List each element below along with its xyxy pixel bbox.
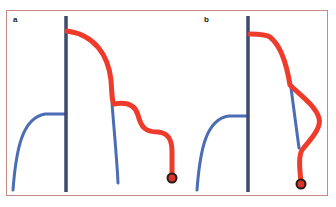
diagram-canvas [0, 0, 336, 207]
panel-a [13, 16, 177, 192]
panel-a-side-branch [112, 103, 118, 183]
panel-b-side-branch [291, 88, 299, 148]
panel-b-endpoint-icon [297, 180, 306, 189]
panel-a-red-path [67, 31, 172, 177]
panel-a-left-branch [13, 114, 66, 190]
panel-a-endpoint-icon [168, 174, 177, 183]
panel-b-left-branch [197, 116, 248, 190]
panel-b-red-path [250, 34, 319, 183]
panel-b [197, 16, 319, 192]
